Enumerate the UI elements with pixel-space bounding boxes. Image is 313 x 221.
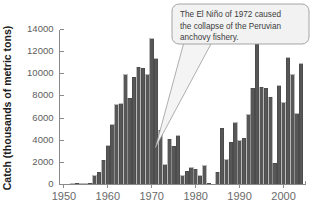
bar [198,176,202,185]
bar [168,139,172,184]
bar [194,169,198,185]
x-tick-label: 1960 [96,190,120,202]
x-tick-label: 1980 [183,190,207,202]
bar [203,166,207,185]
bar [220,128,224,184]
bar [286,58,290,185]
y-tick-label: 8000 [32,89,53,100]
y-axis-title: Catch (thousands of metric tons) [1,26,13,191]
bar [150,39,154,185]
bar [299,64,303,185]
bar [185,171,189,184]
x-tick-label: 1950 [52,190,76,202]
bar [189,168,193,185]
x-tick-label: 1970 [140,190,164,202]
y-axis-ticks: 02000400060008000100001200014000 [27,23,63,189]
bar [132,77,136,184]
x-tick-label: 2000 [271,190,295,202]
bar [225,160,229,185]
bar [238,141,242,185]
callout-text-line: the collapse of the Peruvian [180,22,281,31]
bar [93,176,97,185]
y-tick-label: 14000 [27,23,53,34]
x-tick-label: 1990 [227,190,251,202]
callout-tail [156,42,213,148]
bar [115,105,119,185]
bar [255,44,259,184]
bar [229,142,233,184]
bar [137,67,141,184]
bar [216,172,220,184]
chart-figure: 02000400060008000100001200014000 1950196… [0,0,313,221]
bar [269,97,273,184]
bar [110,125,114,185]
bar [146,75,150,185]
bar [181,176,185,185]
bar [264,88,268,184]
bar [273,163,277,184]
y-tick-label: 2000 [32,156,53,167]
bar [277,86,281,185]
bar [282,103,286,185]
bar [295,114,299,185]
bar [176,136,180,185]
callout-text-line: anchovy fishery. [180,33,239,42]
y-tick-label: 4000 [32,134,53,145]
bar [233,123,237,185]
y-axis-title-text: Catch (thousands of metric tons) [1,26,13,191]
bar [172,146,176,184]
y-tick-label: 12000 [27,45,53,56]
bar [163,165,167,185]
bar [291,75,295,185]
bar [97,172,101,184]
bar [102,160,106,184]
callout-text-line: The El Niño of 1972 caused [180,10,281,19]
bar [260,87,264,184]
bar [124,75,128,185]
bar [106,146,110,185]
bar [141,68,145,184]
bar [119,104,123,185]
bar [247,115,251,185]
bar [251,88,255,184]
x-axis-ticks: 195019601970198019902000 [52,185,296,202]
bar [154,59,158,185]
bar [242,138,246,185]
anchovy-catch-plot: 02000400060008000100001200014000 1950196… [0,0,313,221]
bar [128,98,132,184]
y-tick-label: 0 [48,178,53,189]
y-tick-label: 10000 [27,67,53,78]
y-tick-label: 6000 [32,112,53,123]
